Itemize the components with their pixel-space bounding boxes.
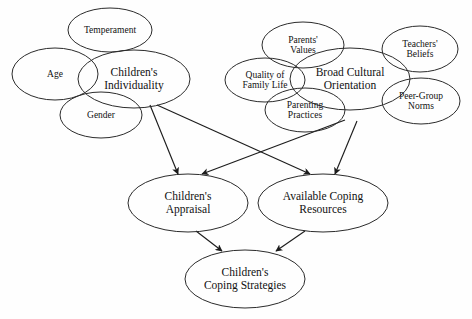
- node-ellipse-parenting: [265, 88, 345, 132]
- node-ellipse-teachers: [382, 26, 458, 72]
- edge-resources-to-strategies: [276, 231, 305, 251]
- node-ellipse-temperament: [68, 8, 152, 52]
- nodes-layer: [12, 8, 460, 308]
- edge-appraisal-to-strategies: [196, 231, 222, 251]
- node-ellipse-peer_group: [382, 78, 460, 124]
- diagram-svg: [0, 0, 472, 319]
- node-ellipse-appraisal: [128, 174, 248, 232]
- edge-cultural-to-resources: [335, 121, 357, 174]
- node-ellipse-coping_res: [258, 174, 388, 232]
- diagram-canvas: TemperamentAgeChildren's IndividualityGe…: [0, 0, 472, 319]
- node-ellipse-coping_strat: [185, 250, 305, 308]
- node-ellipse-gender: [60, 92, 142, 138]
- edge-individuality-to-appraisal: [150, 105, 178, 174]
